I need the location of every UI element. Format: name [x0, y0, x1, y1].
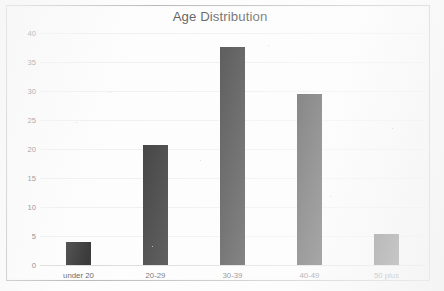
y-axis-tick-label: 15: [10, 174, 36, 183]
y-axis-tick-label: 10: [10, 203, 36, 212]
y-axis-tick-label: 25: [10, 116, 36, 125]
x-axis-category-label: 40-49: [270, 271, 350, 280]
x-axis-category-label: 50 plus: [347, 271, 427, 280]
chart-screenshot: Age Distribution 0510152025303540under 2…: [0, 0, 444, 291]
x-axis-category-label: under 20: [39, 271, 119, 280]
bar: [374, 234, 399, 265]
bar: [66, 242, 91, 265]
x-axis-category-label: 20-29: [116, 271, 196, 280]
x-axis-category-label: 30-39: [193, 271, 273, 280]
bar: [143, 145, 168, 265]
bar: [220, 47, 245, 265]
plot-area: 0510152025303540under 2020-2930-3940-495…: [0, 0, 444, 291]
y-axis-tick-label: 40: [10, 29, 36, 38]
y-axis-tick-label: 0: [10, 261, 36, 270]
y-axis-tick-label: 20: [10, 145, 36, 154]
bar: [297, 94, 322, 265]
y-axis-tick-label: 5: [10, 232, 36, 241]
x-axis-baseline: [40, 265, 425, 266]
y-axis-tick-label: 35: [10, 58, 36, 67]
gridline: [40, 33, 425, 34]
y-axis-tick-label: 30: [10, 87, 36, 96]
